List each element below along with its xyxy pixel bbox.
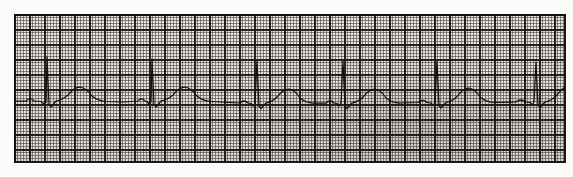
ecg-rhythm-strip-figure [0, 0, 573, 177]
ecg-grid-bold-lines [14, 14, 566, 163]
ecg-graph-paper [14, 14, 566, 163]
